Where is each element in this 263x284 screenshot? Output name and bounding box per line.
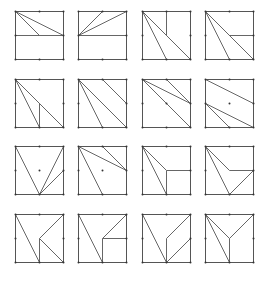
grid-dot (205, 103, 207, 105)
grid-dot (229, 127, 231, 129)
grid-dot (253, 79, 255, 81)
grid-dot (253, 238, 255, 240)
grid-dot (229, 146, 231, 148)
tile-r2c3 (142, 79, 192, 129)
grid-dot (126, 127, 128, 129)
tile-r1c1 (15, 11, 65, 61)
cut-line (16, 215, 40, 263)
grid-dot (63, 146, 65, 148)
grid-dot (63, 214, 65, 216)
cut-line (206, 12, 230, 60)
cut-line (40, 147, 64, 195)
grid-dot (190, 262, 192, 264)
grid-dot (253, 127, 255, 129)
grid-dot (253, 11, 255, 13)
grid-dot (15, 146, 17, 148)
grid-dot (253, 103, 255, 105)
grid-dot (126, 103, 128, 105)
cut-line (206, 80, 254, 104)
grid-dot (78, 238, 80, 240)
grid-dot (15, 11, 17, 13)
grid-dot (15, 59, 17, 61)
cut-line (79, 147, 103, 195)
cut-line (79, 12, 103, 36)
cut-line (79, 12, 127, 36)
grid-dot (229, 262, 231, 264)
grid-dot (229, 11, 231, 13)
tile-r4c1 (15, 214, 65, 264)
grid-dot (63, 194, 65, 196)
grid-dot (166, 194, 168, 196)
grid-dot (102, 214, 104, 216)
grid-dot (205, 238, 207, 240)
grid-dot (126, 194, 128, 196)
tile-r4c3 (142, 214, 192, 264)
grid-dot (15, 127, 17, 129)
grid-dot (205, 146, 207, 148)
cut-line (167, 80, 191, 104)
grid-dot (229, 79, 231, 81)
grid-dot (102, 127, 104, 129)
grid-dot (78, 146, 80, 148)
grid-dot (39, 170, 41, 172)
grid-dot (63, 127, 65, 129)
cut-line (230, 215, 254, 239)
cut-line (40, 215, 64, 239)
grid-dot (229, 59, 231, 61)
grid-dot (39, 79, 41, 81)
grid-dot (166, 127, 168, 129)
grid-dot (253, 35, 255, 37)
grid-dot (78, 35, 80, 37)
grid-dot (63, 238, 65, 240)
grid-dot (142, 35, 144, 37)
grid-dot (205, 11, 207, 13)
tile-r3c3 (142, 146, 192, 196)
grid-dot (142, 103, 144, 105)
grid-dot (102, 59, 104, 61)
grid-dot (205, 35, 207, 37)
grid-dot (229, 214, 231, 216)
cut-line (143, 215, 167, 263)
grid-dot (39, 214, 41, 216)
tile-r3c4 (205, 146, 255, 196)
grid-dot (190, 238, 192, 240)
grid-dot (126, 11, 128, 13)
cut-line (143, 147, 167, 195)
grid-dot (63, 170, 65, 172)
grid-dot (126, 214, 128, 216)
grid-dot (142, 127, 144, 129)
grid-dot (102, 79, 104, 81)
cut-line (103, 147, 127, 171)
grid-dot (190, 214, 192, 216)
cut-line (79, 215, 103, 263)
grid-dot (39, 127, 41, 129)
grid-dot (15, 35, 17, 37)
cut-line (40, 171, 64, 195)
cut-line (206, 104, 254, 128)
grid-dot (102, 11, 104, 13)
grid-dot (63, 262, 65, 264)
cut-line (143, 147, 167, 171)
grid-dot (15, 79, 17, 81)
grid-dot (142, 262, 144, 264)
grid-dot (78, 103, 80, 105)
grid-dot (15, 170, 17, 172)
cut-line (206, 215, 230, 263)
grid-dot (39, 11, 41, 13)
grid-dot (190, 79, 192, 81)
grid-dot (15, 238, 17, 240)
cut-line (16, 80, 40, 128)
grid-dot (126, 238, 128, 240)
cut-line (40, 239, 64, 263)
grid-dot (78, 170, 80, 172)
grid-dot (78, 194, 80, 196)
grid-dot (253, 194, 255, 196)
grid-dot (205, 59, 207, 61)
cut-line (16, 12, 40, 36)
grid-dot (142, 170, 144, 172)
grid-dot (166, 146, 168, 148)
grid-dot (15, 214, 17, 216)
grid-dot (166, 11, 168, 13)
grid-dot (63, 59, 65, 61)
grid-dot (166, 79, 168, 81)
